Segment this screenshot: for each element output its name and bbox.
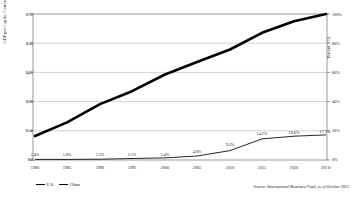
x-tick-1995: 1995 <box>115 165 149 170</box>
source-note: Source: International Monetary Fund, as … <box>254 184 350 189</box>
legend-label-us: U.S. <box>47 182 55 187</box>
x-tick-2020: 2020 <box>277 165 311 170</box>
x-tick-2005: 2005 <box>180 165 214 170</box>
plot-frame <box>33 14 327 160</box>
annotation-pct-1995: 2.1% <box>117 152 147 157</box>
axis-ticks-right <box>327 14 330 160</box>
x-tick-1990: 1990 <box>83 165 117 170</box>
annotation-pct-2021f: 17.1% <box>310 129 340 134</box>
legend: U.S. China <box>36 182 80 187</box>
annotation-pct-2005: 4.0% <box>182 149 212 154</box>
annotation-pct-1985: 1.8% <box>52 152 82 157</box>
axis-ticks-left <box>30 14 33 160</box>
annotation-pct-2010: 9.3% <box>215 142 245 147</box>
annotation-pct-2000: 2.4% <box>150 152 180 157</box>
x-tick-2000: 2000 <box>148 165 182 170</box>
x-tick-1980: 1980 <box>18 165 52 170</box>
legend-entry-us[interactable]: U.S. <box>36 182 54 187</box>
legend-swatch-us-icon <box>36 184 45 186</box>
x-tick-2010: 2010 <box>213 165 247 170</box>
x-tick-2015: 2015 <box>245 165 279 170</box>
annotation-pct-2020: 16.6% <box>279 130 309 135</box>
legend-swatch-china-icon <box>59 184 68 185</box>
annotation-pct-1990: 1.5% <box>85 152 115 157</box>
annotation-pct-1980: 2.4% <box>20 152 50 157</box>
x-tick-2021f: 2021f <box>309 165 343 170</box>
x-tick-1985: 1985 <box>50 165 84 170</box>
annotation-pct-2015: 14.2% <box>247 131 277 136</box>
legend-label-china: China <box>70 182 80 187</box>
chart-container: GDP per Capita, Current Prices Percent, … <box>0 0 360 199</box>
legend-entry-china[interactable]: China <box>59 182 80 187</box>
